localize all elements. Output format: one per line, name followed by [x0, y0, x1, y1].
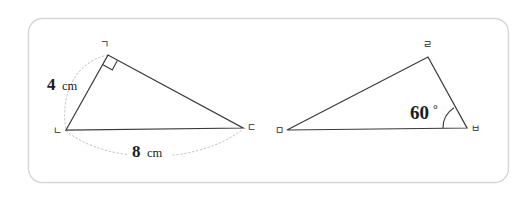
length-8-unit: cm: [147, 146, 163, 160]
vertex-label-nieun: ㄴ: [53, 125, 62, 136]
vertex-label-giyeok: ㄱ: [100, 39, 109, 50]
vertex-label-bieup: ㅂ: [471, 123, 480, 134]
geometry-figure-canvas: ㄱ ㄴ ㄷ 4 cm 8 cm ㄹ ㅁ ㅂ 60 °: [0, 0, 530, 197]
angle-60-unit: °: [433, 102, 438, 116]
figure-panel: ㄱ ㄴ ㄷ 4 cm 8 cm ㄹ ㅁ ㅂ 60 °: [0, 0, 530, 197]
vertex-label-digeut: ㄷ: [247, 122, 256, 133]
length-4-value: 4: [47, 75, 56, 94]
vertex-label-mieum: ㅁ: [275, 125, 284, 136]
vertex-label-rieul: ㄹ: [423, 39, 432, 50]
length-4-unit: cm: [62, 79, 78, 93]
length-8-value: 8: [132, 142, 141, 161]
angle-60-value: 60: [410, 102, 429, 123]
